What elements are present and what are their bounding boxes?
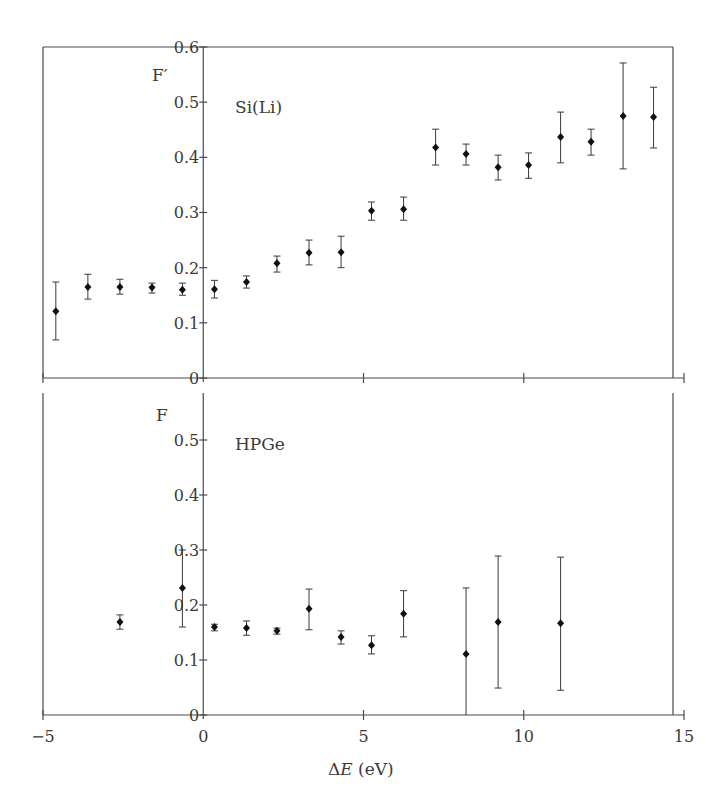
data-point <box>116 615 123 629</box>
diamond-marker <box>400 205 407 213</box>
data-point <box>557 557 564 690</box>
y-tick-label: 0.5 <box>174 431 199 450</box>
data-point <box>432 129 439 165</box>
data-point <box>525 153 532 178</box>
data-point <box>306 589 313 630</box>
diamond-marker <box>557 619 564 627</box>
diamond-marker <box>306 249 313 257</box>
diamond-marker <box>400 610 407 618</box>
diamond-marker <box>338 248 345 256</box>
data-point <box>368 636 375 654</box>
data-point <box>273 627 280 635</box>
diamond-marker <box>179 286 186 294</box>
data-point <box>179 283 186 295</box>
diamond-marker <box>557 133 564 141</box>
y-tick-label: 0.3 <box>174 541 199 560</box>
data-point <box>400 197 407 220</box>
diamond-marker <box>620 112 627 120</box>
data-point <box>463 588 470 715</box>
data-point <box>338 236 345 267</box>
y-tick-label: 0.1 <box>174 314 199 333</box>
data-point <box>368 202 375 220</box>
top-panel-title: Si(Li) <box>235 97 282 117</box>
diamond-marker <box>84 283 91 291</box>
y-tick-label: 0.3 <box>174 203 199 222</box>
data-point <box>179 550 186 627</box>
bottom-panel-y-ticks: 00.10.20.30.40.5 <box>174 431 207 725</box>
bottom-panel-data-points <box>116 550 564 715</box>
x-tick-label: 0 <box>198 727 208 746</box>
top-panel-y-label: F′ <box>152 65 168 85</box>
diamond-marker <box>432 143 439 151</box>
data-point <box>243 276 250 288</box>
data-point <box>52 282 59 340</box>
data-point <box>650 87 657 148</box>
data-point <box>338 631 345 644</box>
diamond-marker <box>463 150 470 158</box>
diamond-marker <box>306 605 313 613</box>
data-point <box>211 280 218 298</box>
y-tick-label: 0.1 <box>174 651 199 670</box>
x-tick-labels: −5051015 <box>31 727 694 746</box>
y-tick-label: 0.2 <box>174 259 199 278</box>
data-point <box>211 623 218 631</box>
y-tick-label: 0.5 <box>174 93 199 112</box>
diamond-marker <box>116 618 123 626</box>
diamond-marker <box>495 163 502 171</box>
diamond-marker <box>525 161 532 169</box>
data-point <box>495 155 502 180</box>
diamond-marker <box>495 618 502 626</box>
data-point <box>620 63 627 169</box>
diamond-marker <box>116 283 123 291</box>
y-tick-label: 0.4 <box>174 148 199 167</box>
diamond-marker <box>273 259 280 267</box>
x-tick-label: 5 <box>358 727 368 746</box>
diamond-marker <box>463 650 470 658</box>
diamond-marker <box>338 633 345 641</box>
diamond-marker <box>368 207 375 215</box>
diamond-marker <box>650 113 657 121</box>
panel-hpge: 00.10.20.30.40.5 F HPGe <box>43 393 684 725</box>
top-panel-frame <box>43 47 684 382</box>
diamond-marker <box>243 624 250 632</box>
data-point <box>306 240 313 265</box>
x-tick-label: −5 <box>31 727 55 746</box>
x-axis-label: ΔE (eV) <box>328 759 394 779</box>
bottom-panel-y-label: F <box>156 405 168 425</box>
x-tick-label: 15 <box>674 727 694 746</box>
bottom-panel-frame <box>43 393 684 719</box>
panel-si-li: 00.10.20.30.40.50.6 F′ Si(Li) <box>43 38 684 388</box>
bottom-panel-title: HPGe <box>235 434 285 454</box>
data-point <box>84 274 91 299</box>
top-panel-y-ticks: 00.10.20.30.40.50.6 <box>174 38 207 388</box>
y-tick-label: 0 <box>189 369 199 388</box>
diamond-marker <box>211 285 218 293</box>
diamond-marker <box>148 284 155 292</box>
top-panel-data-points <box>52 63 657 340</box>
chart-figure: 00.10.20.30.40.50.6 F′ Si(Li) 00.10.20.3… <box>0 0 717 803</box>
data-point <box>495 556 502 688</box>
diamond-marker <box>52 307 59 315</box>
y-tick-label: 0.6 <box>174 38 199 57</box>
data-point <box>243 621 250 635</box>
data-point <box>463 144 470 165</box>
y-tick-label: 0.4 <box>174 486 199 505</box>
data-point <box>273 256 280 272</box>
data-point <box>588 129 595 155</box>
data-point <box>116 279 123 294</box>
x-tick-label: 10 <box>514 727 534 746</box>
diamond-marker <box>179 584 186 592</box>
data-point <box>557 112 564 163</box>
diamond-marker <box>588 138 595 146</box>
y-tick-label: 0.2 <box>174 596 199 615</box>
diamond-marker <box>243 278 250 286</box>
data-point <box>400 591 407 637</box>
data-point <box>148 283 155 293</box>
diamond-marker <box>368 641 375 649</box>
y-tick-label: 0 <box>189 706 199 725</box>
